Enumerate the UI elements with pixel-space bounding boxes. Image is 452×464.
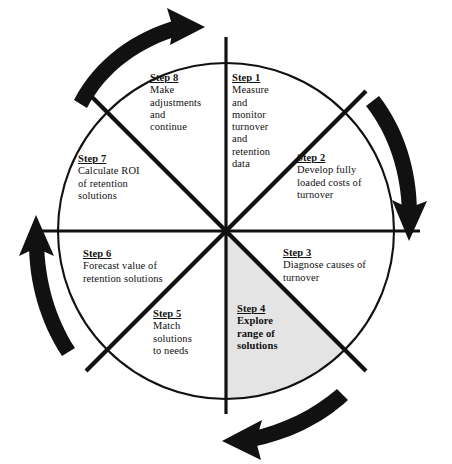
step-6-title: Step 6 bbox=[83, 248, 187, 260]
cycle-wheel-graphic bbox=[0, 0, 452, 464]
sector-label-step-5: Step 5 Match solutions to needs bbox=[153, 308, 227, 357]
sector-label-step-7: Step 7 Calculate ROI of retention soluti… bbox=[78, 153, 162, 202]
step-3-title: Step 3 bbox=[283, 247, 377, 259]
step-6-body: Forecast value of retention solutions bbox=[83, 260, 187, 285]
sector-label-step-4: Step 4 Explore range of solutions bbox=[237, 303, 307, 352]
sector-label-step-2: Step 2 Develop fully loaded costs of tur… bbox=[297, 152, 379, 201]
step-4-title: Step 4 bbox=[237, 303, 307, 315]
sector-label-step-6: Step 6 Forecast value of retention solut… bbox=[83, 248, 187, 285]
sector-label-step-3: Step 3 Diagnose causes of turnover bbox=[283, 247, 377, 284]
step-2-title: Step 2 bbox=[297, 152, 379, 164]
sector-label-step-8: Step 8 Make adjustments and continue bbox=[150, 72, 222, 133]
step-2-body: Develop fully loaded costs of turnover bbox=[297, 164, 379, 201]
step-7-body: Calculate ROI of retention solutions bbox=[78, 165, 162, 202]
step-1-title: Step 1 bbox=[232, 72, 294, 84]
step-8-title: Step 8 bbox=[150, 72, 222, 84]
step-5-body: Match solutions to needs bbox=[153, 320, 227, 357]
step-5-title: Step 5 bbox=[153, 308, 227, 320]
step-1-body: Measure and monitor turnover and retenti… bbox=[232, 84, 294, 170]
step-7-title: Step 7 bbox=[78, 153, 162, 165]
retention-cycle-diagram: Step 1 Measure and monitor turnover and … bbox=[0, 0, 452, 464]
sector-label-step-1: Step 1 Measure and monitor turnover and … bbox=[232, 72, 294, 170]
step-8-body: Make adjustments and continue bbox=[150, 84, 222, 133]
step-3-body: Diagnose causes of turnover bbox=[283, 259, 377, 284]
arrow-bottom-right bbox=[222, 389, 348, 460]
step-4-body: Explore range of solutions bbox=[237, 315, 307, 352]
